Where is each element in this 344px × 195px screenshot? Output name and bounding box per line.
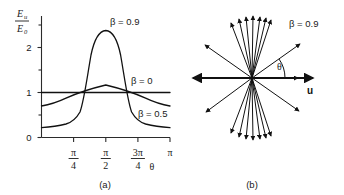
panel-a: E u E 0 0 1 2 π 4 π 2 3π (15, 8, 173, 190)
annotation-beta-0-9-panel-b: β = 0.9 (289, 18, 319, 29)
ray-upper-1 (252, 20, 271, 78)
x-tick-label-pi-over-2: π 2 (101, 147, 111, 171)
x-axis-label-theta: θ (150, 161, 155, 172)
panel-b: θ u β = 0.9 (b) (193, 16, 319, 190)
panel-b-caption: (b) (246, 179, 258, 190)
x-tick-label-pi-over-4-num: π (71, 147, 76, 158)
x-tick-label-3pi-over-4-den: 4 (135, 160, 140, 171)
y-axis-label: E u E 0 (15, 8, 29, 35)
x-tick-label-pi-over-2-num: π (103, 147, 108, 158)
figure-svg: E u E 0 0 1 2 π 4 π 2 3π (0, 0, 344, 195)
x-tick-label-3pi-over-4-num: 3π (133, 147, 143, 158)
ray-upper-left-diagonal (205, 45, 252, 78)
y-axis-label-denominator: E (16, 23, 23, 34)
panel-a-caption: (a) (99, 179, 111, 190)
curve-beta-0-5 (42, 85, 171, 106)
u-axis-label: u (307, 85, 313, 96)
figure-container: E u E 0 0 1 2 π 4 π 2 3π (0, 0, 344, 195)
x-tick-label-pi-over-4: π 4 (69, 147, 79, 171)
x-tick-label-pi-over-4-den: 4 (71, 160, 76, 171)
annotation-beta-0-9: β = 0.9 (110, 16, 140, 27)
annotation-beta-0: β = 0 (131, 75, 153, 86)
y-axis-label-numerator: E (16, 8, 23, 19)
annotation-beta-0-5: β = 0.5 (138, 108, 168, 119)
y-axis-label-numerator-sub: u (24, 13, 28, 20)
theta-label: θ (277, 61, 282, 72)
y-axis-label-denominator-sub: 0 (24, 28, 28, 35)
y-tick-label-0: 0 (26, 132, 31, 143)
y-tick-label-2: 2 (26, 42, 31, 53)
x-tick-label-pi-over-2-den: 2 (103, 160, 108, 171)
x-tick-label-pi: π (167, 147, 172, 158)
x-tick-label-3pi-over-4: 3π 4 (131, 147, 145, 171)
y-tick-label-1: 1 (26, 87, 31, 98)
ray-lower-1 (252, 78, 271, 136)
